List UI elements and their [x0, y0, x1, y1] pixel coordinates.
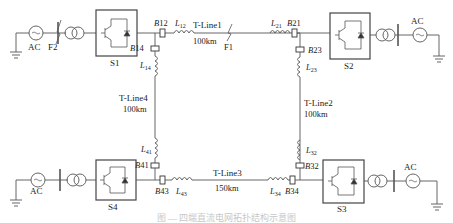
t-line1-length: 100km: [193, 36, 217, 46]
station-s2-label: S2: [344, 61, 354, 71]
inductor-l34-icon: [268, 178, 288, 181]
t-line1-label: T-Line1: [193, 20, 222, 30]
breaker-b23-icon: [296, 47, 304, 52]
breaker-b12-label: B12: [154, 18, 168, 28]
t-line4-length: 100km: [123, 104, 147, 114]
fault-f1-icon: [227, 24, 232, 41]
converter-s2-box: [330, 13, 370, 59]
breaker-b34-icon: [290, 176, 295, 184]
transformer-icon: [67, 174, 86, 186]
inductor-l41-icon: [155, 138, 158, 158]
t-line3-length: 150km: [215, 183, 239, 193]
ground-icon: [10, 180, 22, 206]
transformer-icon: [65, 27, 84, 39]
transformer-icon: [376, 29, 395, 41]
hvdc-grid-diagram: AC F2 S1 B12 L12 T-Line1 100km F1 B14 L1…: [0, 0, 453, 223]
igbt-icon: [101, 19, 130, 47]
ac-label-s3: AC: [404, 162, 417, 172]
ac-label-s1: AC: [28, 42, 41, 52]
inductor-l32-label: L32: [305, 145, 317, 156]
ac-label-s4: AC: [30, 186, 43, 196]
breaker-b41-icon: [151, 163, 159, 168]
ground-icon: [433, 35, 445, 62]
t-line3-label: T-Line3: [213, 168, 242, 178]
figure-caption: 图 — 四端直流电网拓扑结构示意图: [0, 211, 453, 223]
breaker-b21-label: B21: [287, 18, 301, 28]
ac-source-icon: [31, 173, 45, 187]
t-line2-length: 100km: [304, 109, 328, 119]
breaker-b21-icon: [292, 29, 297, 37]
inductor-l43-icon: [172, 178, 192, 181]
ac-source-icon: [413, 28, 427, 42]
breaker-b43-label: B43: [155, 186, 169, 196]
station-s3: [323, 160, 443, 210]
breaker-b43-icon: [160, 176, 165, 184]
ac-label-s2: AC: [411, 16, 424, 26]
breaker-b41-label: B41: [135, 160, 149, 170]
inductor-l12-icon: [174, 31, 194, 34]
t-line2-label: T-Line2: [304, 98, 333, 108]
igbt-icon: [335, 21, 364, 49]
breaker-b34-label: B34: [285, 186, 299, 196]
inductor-l43-label: L43: [175, 186, 187, 197]
breaker-b14-label: B14: [130, 43, 144, 53]
station-s1-label: S1: [110, 58, 120, 68]
t-line4-label: T-Line4: [119, 93, 148, 103]
transformer-icon: [368, 175, 387, 187]
fault-f2-label: F2: [48, 42, 58, 52]
breaker-b32-label: B32: [305, 161, 319, 171]
igbt-icon: [328, 167, 357, 195]
inductor-l41-label: L41: [140, 144, 152, 155]
breaker-b32-icon: [296, 163, 304, 168]
inductor-l23-label: L23: [305, 62, 317, 73]
inductor-l14-icon: [155, 56, 158, 76]
fault-f1-label: F1: [224, 42, 233, 52]
ac-source-icon: [406, 174, 420, 188]
inductor-l21-label: L21: [270, 18, 282, 29]
converter-s3-box: [323, 160, 364, 203]
igbt-icon: [100, 167, 128, 193]
breaker-b14-icon: [151, 46, 159, 51]
ac-source-icon: [29, 26, 43, 40]
ground-icon: [10, 33, 22, 58]
inductor-l34-label: L34: [269, 186, 281, 197]
station-s2: [330, 13, 445, 62]
ground-icon: [431, 181, 443, 210]
breaker-b12-icon: [160, 29, 165, 37]
inductor-l12-label: L12: [174, 18, 186, 29]
inductor-l14-label: L14: [139, 60, 151, 71]
inductor-l23-icon: [298, 57, 301, 77]
breaker-b23-label: B23: [308, 45, 322, 55]
